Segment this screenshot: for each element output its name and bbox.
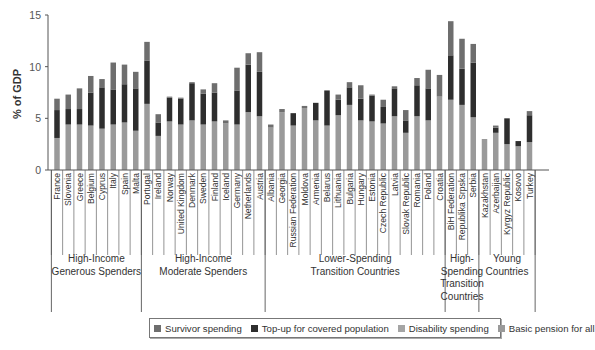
bar-iceland <box>223 120 229 170</box>
bar-segment <box>54 99 60 110</box>
bar-segment <box>358 120 364 170</box>
bar-kyrgyz-republic <box>504 118 510 170</box>
bar-segment <box>111 89 117 124</box>
bar-segment <box>167 121 173 170</box>
bar-netherlands <box>246 53 252 170</box>
bar-segment <box>426 120 432 170</box>
bar-norway <box>167 97 173 170</box>
bar-segment <box>54 138 60 170</box>
bar-segment <box>133 88 139 130</box>
x-category-label: Romania <box>412 173 422 208</box>
y-axis-label: % of GDP <box>11 69 23 119</box>
bar-slovak-republic <box>403 110 409 170</box>
bar-belgium <box>88 76 94 170</box>
bar-spain <box>122 65 128 170</box>
bar-segment <box>77 125 83 170</box>
x-category-label: Bulgaria <box>345 173 355 205</box>
group-label: Transition Countries <box>311 266 400 277</box>
bar-segment <box>77 88 83 109</box>
bar-segment <box>493 133 499 170</box>
bar-segment <box>358 85 364 98</box>
x-category-label: Estonia <box>367 173 377 202</box>
bar-segment <box>516 146 522 170</box>
bar-segment <box>336 95 342 100</box>
bar-segment <box>167 97 173 98</box>
bar-segment <box>178 99 184 125</box>
bar-finland <box>212 83 218 170</box>
bar-segment <box>459 105 465 170</box>
bar-segment <box>144 60 150 103</box>
bar-moldova <box>302 106 308 170</box>
x-category-label: Lithuania <box>333 173 343 208</box>
x-category-label: Kazakhstan <box>480 173 490 218</box>
bar-belarus <box>324 90 330 170</box>
bar-kosovo <box>516 141 522 170</box>
bar-slovenia <box>66 95 72 170</box>
x-category-label: Germany <box>232 172 242 208</box>
legend-item-basic: Basic pension for all <box>498 323 595 334</box>
bar-segment <box>201 89 207 93</box>
bar-segment <box>167 98 173 122</box>
group-label: Moderate Spenders <box>159 266 247 277</box>
bar-segment <box>77 109 83 125</box>
x-category-label: Georgia <box>277 173 287 204</box>
bar-segment <box>347 82 353 87</box>
bar-segment <box>347 105 353 170</box>
bar-segment <box>111 125 117 170</box>
y-axis: 051015 <box>29 9 48 176</box>
bar-republika-srpska <box>459 39 465 170</box>
bar-segment <box>234 90 240 124</box>
x-category-label: Kyrgyz Republic <box>502 172 512 235</box>
x-category-label: Spain <box>120 173 130 195</box>
bar-sweden <box>201 89 207 170</box>
bar-segment <box>189 83 195 120</box>
bar-segment <box>88 76 94 93</box>
bars <box>54 21 532 170</box>
x-category-label: Kosovo <box>513 173 523 202</box>
bar-segment <box>414 85 420 116</box>
bar-segment <box>99 79 105 87</box>
bar-romania <box>414 78 420 170</box>
bar-georgia <box>279 109 285 170</box>
bar-segment <box>369 95 375 96</box>
bar-segment <box>223 120 229 123</box>
legend-label: Disability spending <box>409 323 489 334</box>
group-label: Lower-Spending <box>319 253 392 264</box>
x-category-label: Republika Srpska <box>457 173 467 241</box>
bar-segment <box>336 100 342 116</box>
x-category-label: Croatia <box>435 173 445 201</box>
bar-segment <box>133 131 139 170</box>
bar-segment <box>178 98 184 99</box>
bar-segment <box>212 93 218 122</box>
legend-item-topup: Top-up for covered population <box>251 323 389 334</box>
x-category-label: Azerbaijan <box>491 173 501 214</box>
x-category-label: Turkey <box>525 172 535 199</box>
bar-segment <box>493 126 499 128</box>
bar-serbia <box>471 44 477 170</box>
bar-segment <box>381 124 387 171</box>
bar-segment <box>156 136 162 170</box>
bar-ireland <box>156 114 162 170</box>
bar-segment <box>291 113 297 125</box>
group-label: Young <box>493 253 521 264</box>
x-category-label: France <box>52 173 62 200</box>
bar-segment <box>504 118 510 144</box>
x-category-label: Greece <box>75 173 85 201</box>
bar-segment <box>403 120 409 132</box>
x-category-label: Serbia <box>468 173 478 198</box>
group-label: High-Income <box>175 253 232 264</box>
bar-segment <box>369 121 375 170</box>
bar-segment <box>414 116 420 170</box>
x-axis-categories: FranceSloveniaGreeceBelgiumCyprusItalySp… <box>48 170 549 255</box>
bar-segment <box>358 99 364 121</box>
bar-segment <box>88 126 94 170</box>
x-category-label: Finland <box>210 173 220 201</box>
bar-germany <box>234 68 240 170</box>
bar-segment <box>403 110 409 120</box>
bar-albania <box>268 125 274 170</box>
legend-swatch-disability <box>398 325 405 332</box>
x-category-label: Hungary <box>356 172 366 205</box>
bar-segment <box>291 126 297 170</box>
bar-segment <box>448 21 454 55</box>
bar-segment <box>324 90 330 125</box>
